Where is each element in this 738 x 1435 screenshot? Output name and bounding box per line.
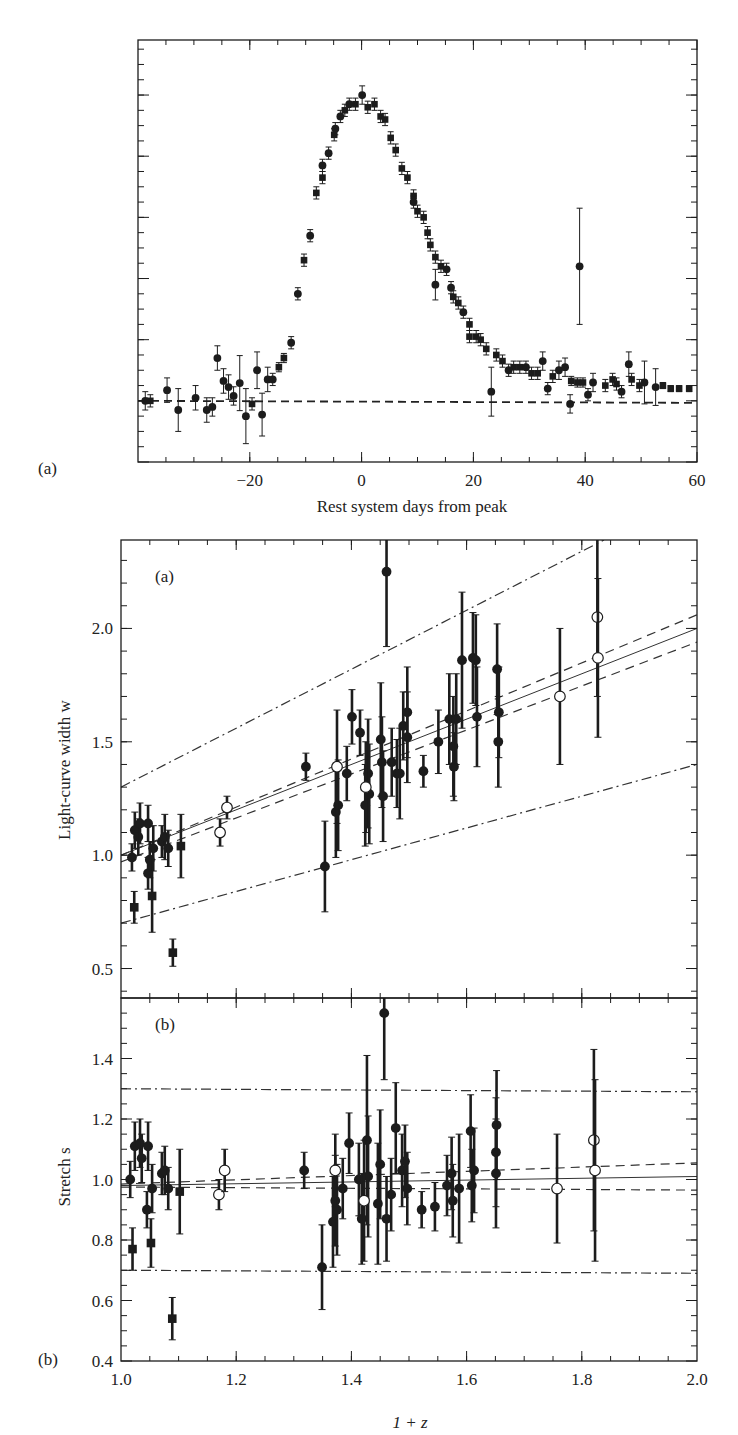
data-point-square — [147, 1239, 156, 1248]
data-point-circle — [378, 791, 388, 801]
data-point-square — [130, 903, 139, 912]
y-tick-label: 1.0 — [92, 846, 113, 865]
data-point-open-circle — [219, 1165, 230, 1176]
data-point-circle — [143, 868, 153, 878]
data-point-open-circle — [330, 1165, 341, 1176]
data-point-circle — [133, 832, 143, 842]
data-point-circle — [163, 843, 173, 853]
data-point-circle — [652, 383, 660, 391]
data-point-circle — [163, 1184, 173, 1194]
data-point-square — [177, 842, 186, 851]
data-point-circle — [325, 149, 333, 157]
data-point-circle — [459, 308, 467, 316]
data-point-circle — [137, 1153, 147, 1163]
data-point-circle — [192, 394, 200, 402]
data-point-circle — [373, 1199, 383, 1209]
data-point-square — [628, 376, 635, 383]
light-curve-panel: −200204060 Rest system days from peak — [138, 40, 706, 516]
x-tick-label: 40 — [577, 471, 594, 490]
x-tick-label: 1.8 — [571, 1370, 592, 1389]
data-point-circle — [448, 1196, 458, 1206]
data-point-open-circle — [359, 1195, 370, 1206]
data-point-circle — [493, 737, 503, 747]
data-point-circle — [342, 769, 352, 779]
data-point-circle — [306, 232, 314, 240]
data-point-square — [427, 242, 434, 249]
data-point-square — [319, 174, 326, 181]
data-point-square — [414, 208, 421, 215]
data-point-circle — [358, 91, 366, 99]
data-point-circle — [544, 385, 552, 393]
data-point-square — [399, 165, 406, 172]
data-point-square — [534, 370, 541, 377]
data-point-square — [169, 948, 178, 957]
data-point-circle — [417, 1205, 427, 1215]
data-point-square — [404, 174, 411, 181]
width-data — [121, 497, 697, 966]
data-point-circle — [294, 290, 302, 298]
width-vs-redshift-panel: 0.51.01.52.0 (a) Light-curve width w — [55, 497, 697, 998]
data-point-circle — [566, 400, 574, 408]
data-point-square — [466, 321, 473, 328]
data-point-circle — [443, 265, 451, 273]
plot-frame — [121, 540, 697, 998]
x-tick-label: 1.6 — [456, 1370, 477, 1389]
data-point-circle — [492, 664, 502, 674]
data-point-square — [249, 401, 256, 408]
data-point-circle — [419, 766, 429, 776]
y-tick-label: 0.8 — [92, 1231, 113, 1250]
data-point-open-circle — [552, 1183, 563, 1194]
light-curve-axes: −200204060 — [138, 40, 706, 490]
data-point-circle — [258, 411, 266, 419]
data-point-square — [420, 214, 427, 221]
plot-frame — [121, 998, 697, 1361]
data-point-square — [387, 135, 394, 142]
data-point-circle — [561, 363, 569, 371]
data-point-circle — [230, 392, 238, 400]
x-tick-label: 20 — [465, 471, 482, 490]
y-tick-label: 2.0 — [92, 619, 113, 638]
light-curve-data — [138, 86, 697, 444]
data-point-square — [660, 382, 667, 389]
data-point-circle — [344, 1138, 354, 1148]
stretch-x-label: 1 + z — [392, 1413, 427, 1432]
data-point-circle — [355, 728, 365, 738]
data-point-circle — [143, 819, 153, 829]
data-point-square — [392, 147, 399, 154]
data-point-circle — [433, 737, 443, 747]
data-point-square — [686, 385, 693, 392]
width-axes: 0.51.01.52.0 — [92, 540, 697, 998]
data-point-square — [148, 892, 157, 901]
data-point-open-circle — [214, 1189, 225, 1200]
data-point-circle — [345, 100, 353, 108]
upper-reference-line — [121, 1089, 697, 1092]
data-point-circle — [487, 388, 495, 396]
x-tick-label: 1.0 — [110, 1370, 131, 1389]
light-curve-x-label: Rest system days from peak — [317, 497, 508, 516]
data-point-circle — [338, 1184, 348, 1194]
data-point-square — [382, 116, 389, 123]
lower-reference-line — [121, 1270, 697, 1273]
data-point-open-circle — [215, 827, 226, 838]
x-tick-label: 2.0 — [686, 1370, 707, 1389]
data-point-circle — [299, 1166, 309, 1176]
data-point-open-circle — [222, 802, 233, 813]
data-point-square — [371, 101, 378, 108]
data-point-open-circle — [590, 1165, 601, 1176]
width-y-label: Light-curve width w — [55, 699, 74, 839]
data-point-square — [528, 370, 535, 377]
data-point-square — [128, 1245, 137, 1254]
x-tick-label: −20 — [237, 471, 264, 490]
data-point-square — [276, 364, 283, 371]
data-point-circle — [641, 379, 649, 387]
data-point-circle — [147, 1184, 157, 1194]
y-tick-label: 1.0 — [92, 1171, 113, 1190]
data-point-open-circle — [361, 782, 372, 793]
data-point-square — [549, 373, 556, 380]
x-tick-label: 1.4 — [341, 1370, 363, 1389]
y-tick-label: 1.4 — [92, 1050, 114, 1069]
baseline-dashed-line — [138, 401, 697, 403]
data-point-circle — [220, 377, 228, 385]
width-panel-label: (a) — [155, 567, 174, 586]
data-point-circle — [522, 363, 530, 371]
